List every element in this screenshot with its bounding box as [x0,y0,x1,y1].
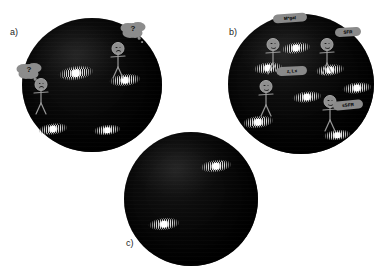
universe-sphere-c [124,132,258,266]
galaxy-core [102,126,112,133]
observer-stick-figure [318,38,336,75]
question-thought-bubble: ? [21,64,38,76]
thought-bubble-tail-dot [34,78,37,81]
galaxy-core [302,93,313,101]
stick-figure-limbs [318,38,336,75]
panel-label-c: c) [126,238,134,248]
observer-stick-figure [109,42,127,79]
galaxy-property-label-bubble: z, Lx [277,66,307,77]
galaxy-core [210,162,222,171]
thought-bubble-tail-dot [141,41,143,43]
galaxy-core [352,84,363,92]
question-thought-bubble: ? [125,23,142,35]
galaxy-property-label-bubble: SFR [335,27,361,37]
galaxy-core [158,220,170,229]
galaxy-core [291,44,302,52]
thought-bubble-tail-dot [37,82,39,84]
observer-stick-figure [257,80,275,117]
stick-figure-limbs [257,80,275,117]
galaxy-core [69,68,82,78]
stick-figure-limbs [32,78,50,115]
sphere-scanlines [124,132,258,266]
panel-label-b: b) [229,27,237,37]
panel-label-a: a) [10,27,18,37]
galaxy-core [332,131,342,138]
observer-stick-figure [32,78,50,115]
galaxy-core [48,125,59,133]
figure-canvas: ??M*galSFRz, LxsSFR a) b) c) [0,0,386,280]
thought-bubble-tail-dot [138,37,141,40]
galaxy-core [252,118,264,127]
stick-figure-limbs [109,42,127,79]
